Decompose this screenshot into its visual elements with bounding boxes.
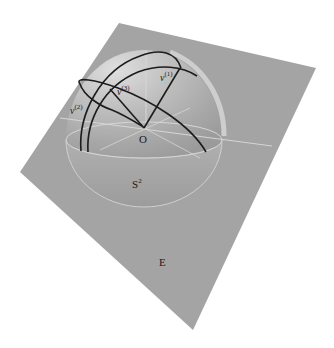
label-plane: E (159, 256, 166, 268)
label-origin: O (139, 133, 147, 145)
sphere-plane-diagram: v(1) v(3) v(2) O S2 E (0, 0, 334, 348)
